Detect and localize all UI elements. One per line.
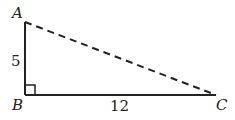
right-angle-marker [25, 85, 35, 95]
side-label-ab: 5 [11, 52, 21, 70]
vertex-label-a: A [10, 4, 23, 22]
side-ac-dashed [25, 22, 216, 95]
triangle-diagram: A B C 5 12 [0, 0, 235, 120]
vertex-label-c: C [216, 96, 228, 114]
side-label-bc: 12 [110, 97, 129, 115]
vertex-label-b: B [11, 96, 23, 114]
